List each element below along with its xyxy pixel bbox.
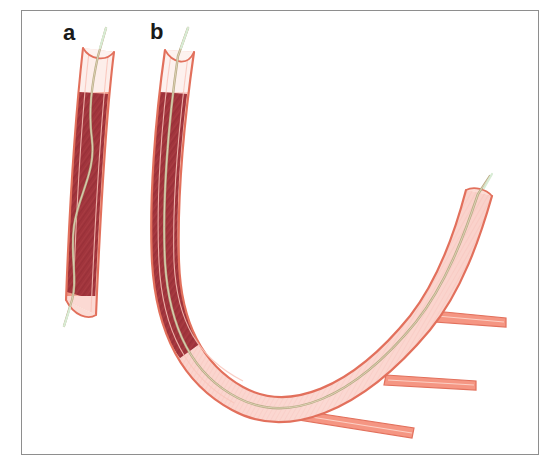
panel-b-vessel bbox=[140, 28, 510, 440]
panel-b-guidewire-tip-distal bbox=[484, 174, 492, 188]
panel-a-guidewire-tip-proximal bbox=[100, 28, 106, 48]
panel-a-guidewire-tip-distal bbox=[64, 308, 70, 326]
panel-b-wall-edge-inner bbox=[179, 52, 466, 397]
panel-label-b: b bbox=[150, 21, 163, 43]
panel-b-guidewire-highlight bbox=[164, 28, 490, 408]
panel-b-guidewire-tip-proximal bbox=[181, 28, 188, 48]
panel-a-vessel bbox=[60, 28, 120, 326]
panel-b-side-branches bbox=[280, 310, 506, 438]
panel-b-proximal-lumen bbox=[140, 40, 260, 92]
vessel-illustration bbox=[0, 0, 560, 474]
figure-root: a b bbox=[0, 0, 560, 474]
panel-label-a: a bbox=[63, 22, 75, 44]
panel-b-guidewire bbox=[164, 28, 490, 408]
